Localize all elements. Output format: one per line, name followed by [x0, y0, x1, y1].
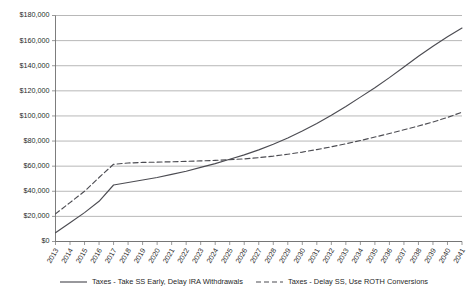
- x-axis-tick-label: 2034: [350, 247, 366, 265]
- x-axis-tick-label: 2029: [277, 247, 293, 265]
- x-axis-tick-label: 2018: [117, 247, 133, 265]
- x-axis-tick-label: 2024: [204, 247, 220, 265]
- x-axis-labels: 2013201420152016201720182019202020212022…: [45, 242, 467, 265]
- x-axis-tick-label: 2031: [306, 247, 322, 265]
- y-axis-tick-label: $180,000: [20, 10, 50, 19]
- x-axis-tick-label: 2021: [161, 247, 177, 265]
- chart-legend: Taxes - Take SS Early, Delay IRA Withdra…: [60, 277, 428, 286]
- y-axis-tick-label: $140,000: [20, 61, 50, 70]
- x-axis-tick-label: 2020: [146, 247, 162, 265]
- x-axis-tick-label: 2022: [175, 247, 191, 265]
- x-axis-tick-label: 2016: [88, 247, 104, 265]
- x-axis-tick-label: 2038: [408, 247, 424, 265]
- legend-item-label: Taxes - Take SS Early, Delay IRA Withdra…: [92, 277, 243, 286]
- legend-item-label: Taxes - Delay SS, Use ROTH Conversions: [288, 277, 428, 286]
- x-axis-tick-label: 2013: [45, 247, 61, 265]
- x-axis-tick-label: 2028: [262, 247, 278, 265]
- x-axis-tick-label: 2025: [219, 247, 235, 265]
- x-axis-tick-label: 2015: [74, 247, 90, 265]
- x-axis-tick-label: 2040: [437, 247, 453, 265]
- series-line: [56, 28, 463, 233]
- y-axis-labels: $0$20,000$40,000$60,000$80,000$100,000$1…: [20, 10, 56, 245]
- y-axis-tick-label: $40,000: [24, 186, 50, 195]
- line-chart: $0$20,000$40,000$60,000$80,000$100,000$1…: [0, 0, 468, 300]
- x-axis-tick-label: 2019: [132, 247, 148, 265]
- y-axis-tick-label: $120,000: [20, 86, 50, 95]
- x-axis-tick-label: 2041: [451, 247, 467, 265]
- x-axis-tick-label: 2032: [320, 247, 336, 265]
- x-axis-tick-label: 2030: [291, 247, 307, 265]
- y-axis-tick-label: $60,000: [24, 161, 50, 170]
- y-axis-tick-label: $160,000: [20, 36, 50, 45]
- chart-container: $0$20,000$40,000$60,000$80,000$100,000$1…: [0, 0, 468, 300]
- x-axis-tick-label: 2035: [364, 247, 380, 265]
- x-axis-tick-label: 2023: [190, 247, 206, 265]
- y-axis-tick-label: $80,000: [24, 136, 50, 145]
- x-axis-tick-label: 2039: [422, 247, 438, 265]
- x-axis-tick-label: 2017: [103, 247, 119, 265]
- x-axis-tick-label: 2027: [248, 247, 264, 265]
- data-series: [56, 28, 463, 233]
- x-axis-tick-label: 2014: [59, 247, 75, 265]
- x-axis-tick-label: 2033: [335, 247, 351, 265]
- x-axis-tick-label: 2026: [233, 247, 249, 265]
- y-axis-tick-label: $20,000: [24, 211, 50, 220]
- x-axis-tick-label: 2036: [379, 247, 395, 265]
- y-axis-tick-label: $100,000: [20, 111, 50, 120]
- x-axis-tick-label: 2037: [393, 247, 409, 265]
- grid-lines: [56, 16, 463, 242]
- series-line: [56, 112, 463, 214]
- y-axis-tick-label: $0: [42, 236, 50, 245]
